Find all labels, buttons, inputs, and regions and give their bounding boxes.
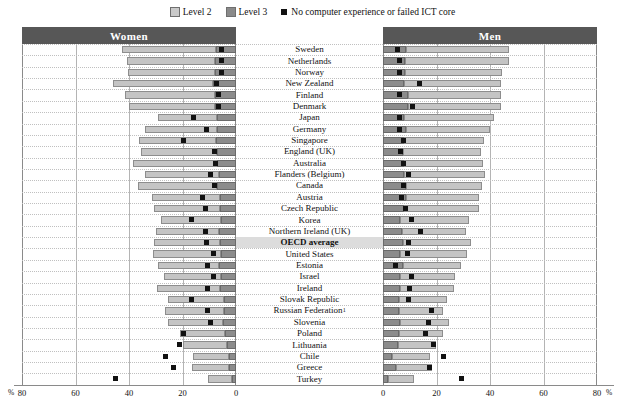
bar-segment-level-3-women	[220, 205, 236, 212]
bar-segment-level-3-men	[383, 250, 400, 257]
no-computer-marker-men	[406, 172, 411, 177]
chart-row: Slovak Republic	[0, 294, 625, 305]
country-label: Northern Ireland (UK)	[236, 226, 383, 237]
no-computer-marker-women	[203, 206, 208, 211]
bar-segment-level-2-women	[152, 194, 220, 201]
axis-unit-right: %	[606, 388, 612, 397]
no-computer-marker-women	[219, 58, 224, 63]
country-label: Turkey	[236, 373, 383, 384]
bar-segment-level-3-men	[383, 171, 404, 178]
bar-segment-level-2-women	[168, 296, 224, 303]
bar-segment-level-2-women	[156, 228, 219, 235]
bar-segment-level-2-men	[408, 103, 500, 110]
bar-segment-level-2-women	[128, 69, 215, 76]
bar-segment-level-3-women	[219, 262, 236, 269]
bar-segment-level-2-men	[405, 69, 501, 76]
chart-row: Flanders (Belgium)	[0, 169, 625, 180]
chart-row: Netherlands	[0, 55, 625, 66]
bar-segment-level-3-women	[217, 148, 236, 155]
bar-segment-level-3-women	[217, 160, 236, 167]
chart-row: Australia	[0, 158, 625, 169]
bar-segment-level-2-women	[154, 205, 220, 212]
no-computer-marker-men	[429, 308, 434, 313]
bar-segment-level-3-men	[383, 364, 396, 371]
no-computer-marker-icon	[281, 9, 287, 15]
bar-segment-level-3-men	[383, 57, 405, 64]
level-2-swatch-icon	[170, 7, 180, 17]
country-label: England (UK)	[236, 146, 383, 157]
bar-segment-level-3-women	[227, 341, 236, 348]
no-computer-marker-women	[191, 115, 196, 120]
no-computer-marker-women	[163, 354, 168, 359]
no-computer-marker-women	[213, 161, 218, 166]
no-computer-marker-men	[423, 331, 428, 336]
bar-segment-level-3-men	[383, 239, 403, 246]
no-computer-marker-women	[171, 365, 176, 370]
no-computer-marker-men	[397, 58, 402, 63]
chart-root: Level 2 Level 3 No computer experience o…	[0, 0, 625, 408]
bar-segment-level-3-men	[383, 126, 406, 133]
no-computer-marker-men	[417, 81, 422, 86]
legend-item-level-2: Level 2	[170, 7, 212, 17]
chart-row: Korea	[0, 214, 625, 225]
bar-segment-level-3-women	[229, 364, 236, 371]
panel-header-women: Women	[22, 27, 236, 44]
no-computer-marker-women	[189, 217, 194, 222]
no-computer-marker-women	[205, 263, 210, 268]
country-label: Canada	[236, 180, 383, 191]
country-label: OECD average	[236, 237, 383, 248]
chart-row: Turkey	[0, 373, 625, 384]
footnote-marker: 1	[343, 305, 346, 316]
no-computer-marker-women	[208, 320, 213, 325]
no-computer-marker-women	[212, 149, 217, 154]
legend-item-no-computer: No computer experience or failed ICT cor…	[281, 7, 455, 17]
bar-segment-level-2-women	[165, 307, 224, 314]
no-computer-marker-women	[181, 138, 186, 143]
no-computer-marker-men	[397, 115, 402, 120]
no-computer-marker-men	[410, 104, 415, 109]
country-label: Finland	[236, 89, 383, 100]
axis-tick-right: 0	[381, 388, 385, 398]
no-computer-marker-men	[403, 206, 408, 211]
bar-segment-level-2-women	[113, 80, 213, 87]
country-label: Poland	[236, 328, 383, 339]
bar-segment-level-2-men	[399, 330, 443, 337]
no-computer-marker-men	[398, 149, 403, 154]
bar-segment-level-3-men	[383, 69, 405, 76]
bar-segment-level-2-men	[405, 57, 509, 64]
bar-segment-level-2-men	[400, 319, 448, 326]
bar-segment-level-2-women	[122, 46, 216, 53]
country-label: Chile	[236, 351, 383, 362]
no-computer-marker-women	[216, 92, 221, 97]
chart-row: England (UK)	[0, 146, 625, 157]
country-label: Denmark	[236, 101, 383, 112]
bar-segment-level-3-women	[220, 194, 236, 201]
chart-row: Austria	[0, 192, 625, 203]
country-label: Israel	[236, 271, 383, 282]
bar-segment-level-3-men	[383, 285, 400, 292]
country-label: Ireland	[236, 283, 383, 294]
country-label: Japan	[236, 112, 383, 123]
axis-tick-left: 0	[234, 388, 238, 398]
bar-segment-level-3-women	[221, 216, 236, 223]
no-computer-marker-men	[395, 47, 400, 52]
bar-segment-level-2-women	[193, 353, 229, 360]
chart-row: Germany	[0, 124, 625, 135]
no-computer-marker-women	[181, 331, 186, 336]
chart-row: Greece	[0, 362, 625, 373]
bar-segment-level-2-men	[403, 148, 481, 155]
no-computer-marker-women	[205, 308, 210, 313]
bar-segment-level-2-men	[403, 262, 461, 269]
bar-segment-level-2-men	[388, 375, 413, 382]
chart-row: Canada	[0, 180, 625, 191]
bar-segment-level-3-men	[383, 296, 399, 303]
country-label: Sweden	[236, 44, 383, 55]
axis-tick-left: 40	[125, 388, 134, 398]
chart-row: Chile	[0, 351, 625, 362]
bar-segment-level-2-men	[408, 91, 500, 98]
chart-row: Poland	[0, 328, 625, 339]
country-label: Netherlands	[236, 55, 383, 66]
country-label: Slovenia	[236, 317, 383, 328]
axis-tick-left: 60	[71, 388, 80, 398]
legend-label-no-computer: No computer experience or failed ICT cor…	[291, 7, 455, 17]
